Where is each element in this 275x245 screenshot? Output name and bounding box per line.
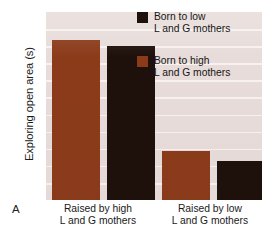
bar	[107, 46, 155, 200]
y-axis-title: Exploring open area (s)	[21, 9, 37, 199]
bar	[52, 40, 100, 200]
plot-area	[46, 12, 262, 200]
bar-group-container	[46, 12, 262, 200]
bar	[162, 151, 210, 200]
x-axis-category-labels: Raised by highL and G mothersRaised by l…	[46, 203, 262, 235]
panel-letter-label: A	[12, 203, 20, 215]
bar	[217, 161, 262, 200]
x-axis-category-label: Raised by highL and G mothers	[42, 203, 154, 227]
x-axis-category-label: Raised by lowL and G mothers	[154, 203, 266, 227]
figure-panel-a: Exploring open area (s) A Born to lowL a…	[0, 0, 275, 245]
